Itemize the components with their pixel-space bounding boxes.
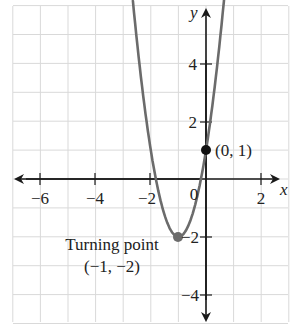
- y-intercept-point: [201, 145, 211, 155]
- tick-label-x-neg2: −2: [138, 189, 156, 208]
- tick-label-y-neg2: −2: [181, 228, 199, 247]
- chart-container: x y −6 −4 −2 0 2 4 2 −2 −4 (0, 1) Turnin…: [0, 0, 290, 326]
- tick-label-x-2: 2: [257, 189, 266, 208]
- tick-label-x-neg6: −6: [31, 189, 49, 208]
- intercept-label: (0, 1): [215, 141, 252, 160]
- x-axis-label: x: [279, 180, 288, 199]
- tick-label-x-neg4: −4: [86, 189, 105, 208]
- tick-label-y-neg4: −4: [181, 286, 200, 305]
- tick-label-y-4: 4: [189, 55, 198, 74]
- tick-label-origin: 0: [190, 185, 199, 204]
- turning-point-coords: (−1, −2): [84, 257, 140, 276]
- tick-label-y-2: 2: [189, 113, 198, 132]
- y-axis-label: y: [188, 3, 198, 22]
- parabola-chart: x y −6 −4 −2 0 2 4 2 −2 −4 (0, 1) Turnin…: [0, 0, 290, 326]
- turning-point-title: Turning point: [65, 235, 159, 254]
- grid: [13, 6, 289, 324]
